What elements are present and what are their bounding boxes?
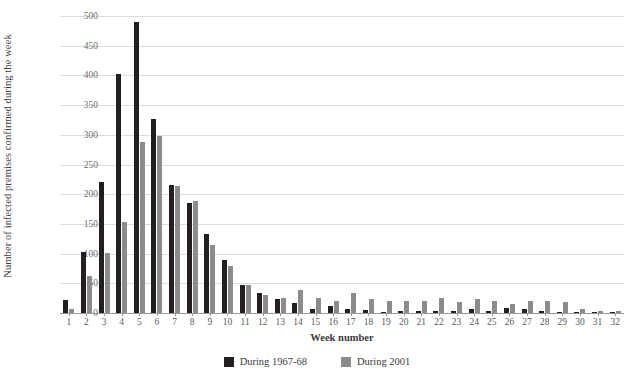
bar-group-week-31 <box>589 16 607 313</box>
bar-2001-week-13 <box>281 298 286 313</box>
bar-group-week-14 <box>289 16 307 313</box>
bar-2001-week-10 <box>228 266 233 313</box>
x-tick-label-16: 16 <box>324 313 342 331</box>
infected-premises-bar-chart: Number of infected premises confirmed du… <box>0 0 634 381</box>
bar-group-week-17 <box>342 16 360 313</box>
x-axis-ticks: 1234567891011121314151617181920212223242… <box>60 313 624 331</box>
x-tick-label-13: 13 <box>272 313 290 331</box>
bar-2001-week-8 <box>193 201 198 313</box>
bar-2001-week-28 <box>545 301 550 313</box>
bar-2001-week-5 <box>140 142 145 313</box>
bar-group-week-9 <box>201 16 219 313</box>
x-tick-label-7: 7 <box>166 313 184 331</box>
bar-1967-68-week-7 <box>169 185 174 313</box>
y-axis-title: Number of infected premises confirmed du… <box>2 6 16 306</box>
bar-1967-68-week-12 <box>257 293 262 313</box>
bar-2001-week-17 <box>351 293 356 313</box>
legend-item-2001: During 2001 <box>341 356 410 367</box>
x-tick-label-30: 30 <box>571 313 589 331</box>
x-tick-label-4: 4 <box>113 313 131 331</box>
bar-group-week-21 <box>413 16 431 313</box>
bar-1967-68-week-13 <box>275 299 280 313</box>
bar-2001-week-18 <box>369 299 374 313</box>
bar-2001-week-4 <box>122 222 127 313</box>
bar-group-week-12 <box>254 16 272 313</box>
bar-group-week-32 <box>606 16 624 313</box>
bar-2001-week-29 <box>563 302 568 313</box>
bar-group-week-28 <box>536 16 554 313</box>
legend-label-2001: During 2001 <box>357 356 410 367</box>
bar-2001-week-20 <box>404 301 409 313</box>
legend-label-1967-68: During 1967-68 <box>240 356 307 367</box>
x-tick-label-11: 11 <box>236 313 254 331</box>
bar-group-week-30 <box>571 16 589 313</box>
plot-area: 050100150200250300350400450500 <box>60 16 624 313</box>
bar-group-week-20 <box>395 16 413 313</box>
bar-group-week-27 <box>518 16 536 313</box>
bar-group-week-23 <box>448 16 466 313</box>
bar-group-week-6 <box>148 16 166 313</box>
x-tick-label-5: 5 <box>131 313 149 331</box>
x-tick-label-12: 12 <box>254 313 272 331</box>
x-tick-label-21: 21 <box>413 313 431 331</box>
bar-group-week-3 <box>95 16 113 313</box>
bar-2001-week-23 <box>457 302 462 313</box>
bar-group-week-24 <box>465 16 483 313</box>
bar-2001-week-24 <box>475 299 480 313</box>
bar-groups <box>60 16 624 313</box>
x-tick-label-26: 26 <box>501 313 519 331</box>
x-tick-label-8: 8 <box>183 313 201 331</box>
x-tick-label-17: 17 <box>342 313 360 331</box>
bar-2001-week-22 <box>439 298 444 313</box>
bar-1967-68-week-14 <box>292 303 297 313</box>
bar-2001-week-15 <box>316 298 321 313</box>
x-tick-label-27: 27 <box>518 313 536 331</box>
bar-group-week-25 <box>483 16 501 313</box>
bar-group-week-18 <box>360 16 378 313</box>
bar-1967-68-week-8 <box>187 203 192 313</box>
bar-1967-68-week-1 <box>63 300 68 313</box>
bar-2001-week-6 <box>157 136 162 313</box>
x-tick-label-14: 14 <box>289 313 307 331</box>
bar-2001-week-19 <box>387 301 392 313</box>
bar-group-week-29 <box>554 16 572 313</box>
bar-1967-68-week-10 <box>222 260 227 313</box>
x-tick-label-32: 32 <box>606 313 624 331</box>
bar-group-week-13 <box>272 16 290 313</box>
x-tick-label-6: 6 <box>148 313 166 331</box>
legend-swatch-icon-1967-68 <box>224 357 234 367</box>
bar-1967-68-week-6 <box>151 119 156 313</box>
x-tick-label-19: 19 <box>377 313 395 331</box>
bar-group-week-8 <box>183 16 201 313</box>
x-tick-label-20: 20 <box>395 313 413 331</box>
x-tick-label-1: 1 <box>60 313 78 331</box>
bar-2001-week-12 <box>263 295 268 313</box>
bar-2001-week-3 <box>105 253 110 313</box>
bar-group-week-19 <box>377 16 395 313</box>
x-tick-label-3: 3 <box>95 313 113 331</box>
bar-group-week-16 <box>324 16 342 313</box>
bar-2001-week-9 <box>210 245 215 313</box>
x-tick-label-28: 28 <box>536 313 554 331</box>
x-axis-title: Week number <box>60 332 624 343</box>
bar-1967-68-week-4 <box>116 74 121 313</box>
bar-1967-68-week-11 <box>240 285 245 314</box>
bar-2001-week-2 <box>87 276 92 313</box>
bar-1967-68-week-5 <box>134 22 139 313</box>
x-tick-label-31: 31 <box>589 313 607 331</box>
bar-2001-week-21 <box>422 301 427 313</box>
bar-2001-week-26 <box>510 304 515 313</box>
bar-group-week-5 <box>131 16 149 313</box>
bar-group-week-11 <box>236 16 254 313</box>
bar-2001-week-27 <box>528 301 533 313</box>
legend-swatch-icon-2001 <box>341 357 351 367</box>
bar-group-week-10 <box>219 16 237 313</box>
bar-1967-68-week-3 <box>99 182 104 313</box>
x-tick-label-24: 24 <box>465 313 483 331</box>
x-tick-label-15: 15 <box>307 313 325 331</box>
x-tick-label-22: 22 <box>430 313 448 331</box>
bar-1967-68-week-2 <box>81 252 86 313</box>
x-tick-label-9: 9 <box>201 313 219 331</box>
x-tick-label-18: 18 <box>360 313 378 331</box>
x-tick-label-25: 25 <box>483 313 501 331</box>
